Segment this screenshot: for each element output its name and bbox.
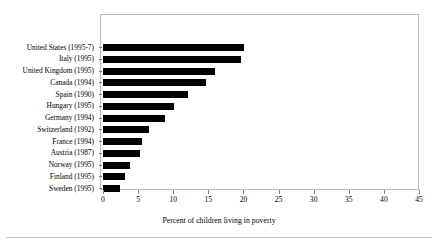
bar-row <box>103 126 149 133</box>
bar-row <box>103 56 241 63</box>
x-axis-tick <box>279 190 280 194</box>
x-axis-tick-label: 45 <box>415 195 423 204</box>
x-axis-tick <box>138 190 139 194</box>
y-axis-tick <box>99 71 102 72</box>
bar <box>103 173 125 180</box>
y-axis-tick <box>99 188 102 189</box>
bar <box>103 103 174 110</box>
bar-row <box>103 150 140 157</box>
category-label: Spain (1990) <box>56 91 94 99</box>
category-label: Hungary (1995) <box>47 102 94 110</box>
poverty-bar-chart-figure: United States (1995-7)Italy (1995)United… <box>0 0 438 243</box>
category-label: Norway (1995) <box>49 161 94 169</box>
bar <box>103 150 140 157</box>
bar <box>103 79 206 86</box>
bar <box>103 115 165 122</box>
bar <box>103 56 241 63</box>
footer-divider <box>6 237 432 238</box>
y-axis-tick <box>99 82 102 83</box>
category-label: United States (1995-7) <box>27 44 94 52</box>
bar <box>103 44 244 51</box>
y-axis-tick <box>99 141 102 142</box>
y-axis-tick <box>99 118 102 119</box>
y-axis-tick <box>99 106 102 107</box>
x-axis-tick-label: 10 <box>169 195 177 204</box>
x-axis: 051015202530354045 <box>0 190 438 210</box>
bar-row <box>103 103 174 110</box>
category-label: Canada (1994) <box>50 79 94 87</box>
x-axis-title: Percent of children living in poverty <box>0 216 438 225</box>
category-label: France (1994) <box>52 138 94 146</box>
x-axis-tick-label: 40 <box>380 195 388 204</box>
bar <box>103 126 149 133</box>
x-axis-tick <box>243 190 244 194</box>
x-axis-tick-label: 5 <box>136 195 140 204</box>
bar-row <box>103 138 142 145</box>
x-axis-tick <box>103 190 104 194</box>
bar-row <box>103 68 215 75</box>
bar-row <box>103 162 130 169</box>
y-axis-tick <box>99 153 102 154</box>
y-axis-tick <box>99 59 102 60</box>
x-axis-tick <box>208 190 209 194</box>
x-axis-tick-label: 35 <box>345 195 353 204</box>
x-axis-tick-label: 15 <box>205 195 213 204</box>
x-axis-tick <box>384 190 385 194</box>
x-axis-tick-label: 20 <box>240 195 248 204</box>
y-axis-tick <box>99 94 102 95</box>
bar <box>103 91 188 98</box>
bar-row <box>103 173 125 180</box>
x-axis-tick <box>349 190 350 194</box>
x-axis-tick <box>314 190 315 194</box>
bar-row <box>103 91 188 98</box>
y-axis-tick <box>99 165 102 166</box>
x-axis-tick-label: 30 <box>310 195 318 204</box>
bar-row <box>103 79 206 86</box>
category-label: Austria (1987) <box>51 149 94 157</box>
y-axis-tick <box>99 47 102 48</box>
category-label: Italy (1995) <box>59 55 94 63</box>
category-label: Germany (1994) <box>45 114 94 122</box>
x-axis-tick-label: 25 <box>275 195 283 204</box>
category-label: Switzerland (1992) <box>37 126 94 134</box>
bar-row <box>103 115 165 122</box>
x-axis-tick <box>173 190 174 194</box>
y-axis-tick <box>99 176 102 177</box>
bar-row <box>103 44 244 51</box>
x-axis-tick-label: 0 <box>101 195 105 204</box>
category-label: United Kingdom (1995) <box>23 67 94 75</box>
category-axis-labels: United States (1995-7)Italy (1995)United… <box>0 14 98 190</box>
bar <box>103 68 215 75</box>
bar <box>103 162 130 169</box>
x-axis-tick <box>419 190 420 194</box>
category-label: Finland (1995) <box>50 173 94 181</box>
bars-layer <box>103 14 419 190</box>
y-axis-tick <box>99 129 102 130</box>
bar <box>103 138 142 145</box>
